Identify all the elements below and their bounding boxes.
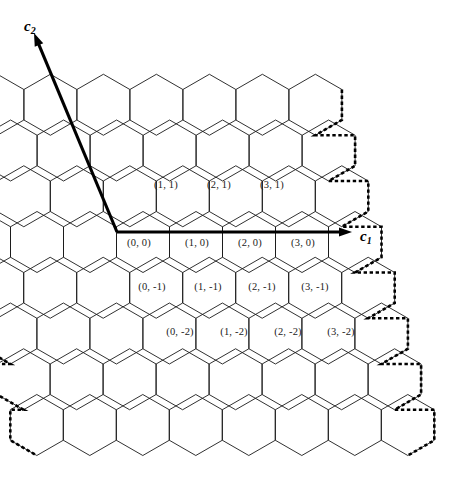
hex-cell — [37, 303, 90, 364]
hex-cell — [355, 303, 408, 364]
hex-cell — [222, 395, 275, 456]
hex-cell — [328, 395, 381, 456]
lattice-boundary-dashed — [0, 90, 434, 456]
lattice-canvas — [0, 0, 467, 497]
hex-cell — [156, 349, 209, 410]
hex-cell — [169, 395, 222, 456]
axis-c2-letter: c — [24, 18, 31, 34]
hex-cell — [209, 166, 262, 227]
cell-label: (1, 0) — [185, 237, 209, 248]
cell-label: (3, -1) — [301, 281, 329, 292]
axis-label-c1: c1 — [360, 228, 372, 246]
cell-label: (2, -2) — [274, 326, 302, 337]
hex-cell — [24, 257, 77, 318]
hex-cell — [209, 349, 262, 410]
cell-label: (1, -1) — [194, 281, 222, 292]
hex-cell — [130, 74, 183, 135]
hex-cell — [77, 257, 130, 318]
hex-cell — [0, 166, 50, 227]
hex-cell — [236, 74, 289, 135]
hex-cell — [50, 349, 103, 410]
hex-cell — [90, 120, 143, 181]
axis-c2-subscript: 2 — [31, 25, 36, 36]
hex-cell — [11, 212, 64, 273]
axis-c1-subscript: 1 — [367, 235, 372, 246]
hex-cell — [0, 212, 11, 273]
cell-label: (2, 0) — [238, 237, 262, 248]
cell-label: (0, -1) — [138, 281, 166, 292]
hex-lattice-figure: c2 c1 (1, 1)(2, 1)(3, 1)(0, 0)(1, 0)(2, … — [0, 0, 467, 497]
hex-cell — [64, 212, 117, 273]
axis-arrow-c1-head — [339, 227, 352, 236]
hex-cell — [262, 349, 315, 410]
cell-label: (3, 1) — [260, 179, 284, 190]
hex-cell — [196, 120, 249, 181]
hex-cell-edges — [0, 74, 434, 455]
hex-cell — [24, 74, 77, 135]
hex-cell — [77, 74, 130, 135]
hex-cell — [103, 349, 156, 410]
hex-cell — [90, 303, 143, 364]
hex-cell — [275, 395, 328, 456]
axis-arrow-c1 — [117, 227, 352, 236]
cell-label: (1, 1) — [154, 179, 178, 190]
hex-cell — [156, 166, 209, 227]
cell-label: (3, -2) — [327, 326, 355, 337]
hex-cell — [63, 395, 116, 456]
boundary-right-dashed — [315, 90, 434, 456]
coordinate-axes — [34, 33, 352, 237]
hex-cell — [315, 349, 368, 410]
cell-label: (1, -2) — [220, 326, 248, 337]
hex-cell — [0, 303, 37, 364]
boundary-left-dashed — [0, 90, 37, 456]
cell-label: (3, 0) — [291, 237, 315, 248]
hex-cell — [143, 120, 196, 181]
cell-label: (2, 1) — [207, 179, 231, 190]
hex-cell — [262, 166, 315, 227]
hex-cell — [50, 166, 103, 227]
hex-cell — [10, 395, 63, 456]
hex-cell — [289, 74, 342, 135]
axis-c1-letter: c — [360, 228, 367, 244]
axis-label-c2: c2 — [24, 18, 36, 36]
cell-label: (0, -2) — [166, 326, 194, 337]
cell-label: (2, -1) — [248, 281, 276, 292]
hex-cell — [116, 395, 169, 456]
hex-cell — [183, 74, 236, 135]
cell-label: (0, 0) — [127, 237, 151, 248]
hex-cell — [302, 120, 355, 181]
hex-cell — [249, 120, 302, 181]
hex-cell — [368, 349, 421, 410]
hex-cell — [0, 120, 37, 181]
